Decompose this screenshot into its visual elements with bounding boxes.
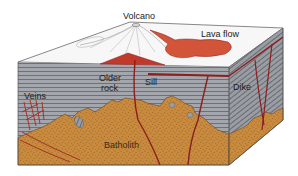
block-diagram: [0, 0, 298, 176]
xenolith: [169, 103, 175, 108]
label-sill: Sill: [145, 78, 157, 87]
label-lava-flow: Lava flow: [201, 30, 239, 39]
label-veins: Veins: [24, 92, 46, 101]
xenolith: [187, 113, 193, 118]
label-older-rock-line2: rock: [101, 84, 118, 93]
label-dike: Dike: [233, 83, 251, 92]
label-volcano: Volcano: [123, 12, 155, 21]
label-older-rock-line1: Older: [99, 74, 121, 83]
label-batholith: Batholith: [104, 141, 139, 150]
volcano-crater: [132, 24, 140, 27]
